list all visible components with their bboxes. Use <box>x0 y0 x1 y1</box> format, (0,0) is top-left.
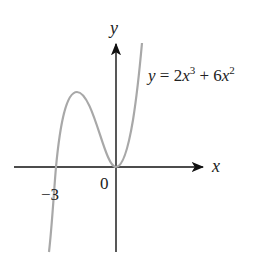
cubic-curve <box>49 43 142 252</box>
x-axis-label: x <box>211 156 220 176</box>
origin-label: 0 <box>100 174 109 193</box>
y-axis-label: y <box>108 18 118 38</box>
equation-label: y = 2x3 + 6x2 <box>146 64 235 85</box>
x-intercept-label: −3 <box>41 185 59 204</box>
cubic-graph: y x 0 −3 y = 2x3 + 6x2 <box>0 0 263 263</box>
